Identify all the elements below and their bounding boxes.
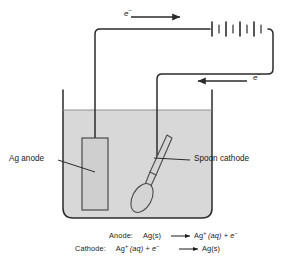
cathode-product: Ag(s) xyxy=(202,244,220,253)
electron-label-bottom: e− xyxy=(253,74,261,82)
anode-product-electron-charge: − xyxy=(235,230,238,236)
electron-label-top: e− xyxy=(124,10,132,18)
anode-equation-products: Ag+(aq) + e− xyxy=(194,232,238,239)
silver-anode-electrode xyxy=(82,138,108,210)
anode-product-main: Ag xyxy=(194,231,203,240)
anode-product-state: (aq) xyxy=(208,231,222,240)
anode-equation: Anode: Ag(s) xyxy=(109,232,161,239)
electroplating-diagram: e− e− Ag anode Spoon cathode Anode: Ag(s… xyxy=(0,0,285,264)
anode-product-charge: + xyxy=(203,230,206,236)
cathode-reactant-state: (aq) xyxy=(130,244,144,253)
anode-equation-heading: Anode: xyxy=(109,231,133,240)
cathode-equation: Cathode: Ag+(aq) + e− xyxy=(75,245,159,252)
cathode-plus: + xyxy=(145,244,149,253)
diagram-svg xyxy=(0,0,285,264)
anode-plus: + xyxy=(224,231,228,240)
ag-anode-label: Ag anode xyxy=(9,155,44,163)
cathode-equation-heading: Cathode: xyxy=(75,244,106,253)
cathode-reactant-main: Ag xyxy=(116,244,125,253)
spoon-cathode-label: Spoon cathode xyxy=(194,155,249,163)
battery-symbol xyxy=(212,22,261,36)
cathode-reactant-electron-charge: − xyxy=(156,243,159,249)
anode-reactant: Ag(s) xyxy=(143,231,161,240)
cathode-equation-product: Ag(s) xyxy=(202,245,220,252)
cathode-reactant-charge: + xyxy=(125,243,128,249)
